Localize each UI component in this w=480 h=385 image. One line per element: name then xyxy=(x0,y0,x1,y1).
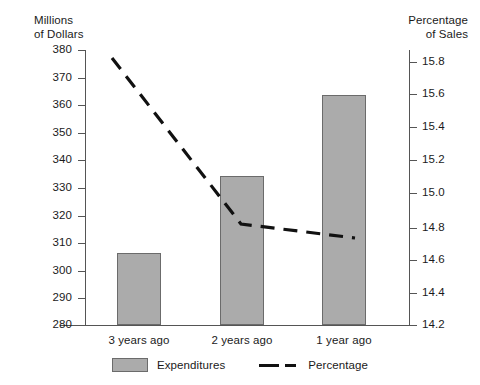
left-tick-mark xyxy=(78,325,85,326)
left-tick-label: 280 xyxy=(30,319,72,331)
right-tick-label: 14.4 xyxy=(422,287,468,299)
left-tick-mark xyxy=(78,50,85,51)
right-tick-mark xyxy=(410,293,417,294)
right-tick-label: 15.2 xyxy=(422,154,468,166)
right-tick-label: 15.0 xyxy=(422,187,468,199)
left-tick-mark xyxy=(78,243,85,244)
left-tick-mark xyxy=(78,105,85,106)
legend-item-percentage: Percentage xyxy=(259,358,368,372)
left-tick-label: 330 xyxy=(30,182,72,194)
right-tick-mark xyxy=(410,228,417,229)
left-tick-label: 340 xyxy=(30,154,72,166)
right-tick-label: 15.8 xyxy=(422,56,468,68)
left-tick-label: 350 xyxy=(30,127,72,139)
left-tick-mark xyxy=(78,298,85,299)
right-tick-mark xyxy=(410,94,417,95)
left-tick-mark xyxy=(78,160,85,161)
bar-2 xyxy=(220,176,264,325)
left-tick-mark xyxy=(78,78,85,79)
legend-label-percentage: Percentage xyxy=(308,359,368,371)
right-tick-mark xyxy=(410,325,417,326)
left-tick-label: 300 xyxy=(30,265,72,277)
x-axis-line xyxy=(60,325,415,326)
right-tick-mark xyxy=(410,193,417,194)
left-tick-mark xyxy=(78,188,85,189)
left-tick-label: 380 xyxy=(30,44,72,56)
right-tick-label: 15.4 xyxy=(422,121,468,133)
category-label-2: 2 years ago xyxy=(187,334,297,346)
bar-1 xyxy=(117,253,161,325)
legend-item-expenditures: Expenditures xyxy=(112,358,225,372)
left-tick-label: 370 xyxy=(30,72,72,84)
right-axis-title: Percentage of Sales xyxy=(408,14,468,41)
category-label-3: 1 year ago xyxy=(289,334,399,346)
left-tick-label: 360 xyxy=(30,99,72,111)
right-tick-mark xyxy=(410,62,417,63)
left-axis-title: Millions of Dollars xyxy=(34,14,84,41)
right-tick-label: 14.6 xyxy=(422,254,468,266)
left-tick-mark xyxy=(78,271,85,272)
bar-swatch-icon xyxy=(112,358,148,372)
right-tick-mark xyxy=(410,127,417,128)
right-tick-mark xyxy=(410,160,417,161)
left-tick-label: 290 xyxy=(30,292,72,304)
left-tick-label: 310 xyxy=(30,237,72,249)
bar-3 xyxy=(322,95,366,325)
left-tick-label: 320 xyxy=(30,210,72,222)
left-tick-mark xyxy=(78,216,85,217)
chart-container: Millions of Dollars Percentage of Sales … xyxy=(0,0,480,385)
right-tick-label: 15.6 xyxy=(422,88,468,100)
category-label-1: 3 years ago xyxy=(84,334,194,346)
left-y-axis-line xyxy=(85,50,86,326)
right-tick-label: 14.8 xyxy=(422,222,468,234)
chart-legend: Expenditures Percentage xyxy=(0,358,480,372)
legend-label-expenditures: Expenditures xyxy=(157,359,225,371)
right-tick-label: 14.2 xyxy=(422,319,468,331)
right-tick-mark xyxy=(410,260,417,261)
dashed-line-icon xyxy=(259,358,299,372)
left-tick-mark xyxy=(78,133,85,134)
right-y-axis-line xyxy=(409,50,410,326)
